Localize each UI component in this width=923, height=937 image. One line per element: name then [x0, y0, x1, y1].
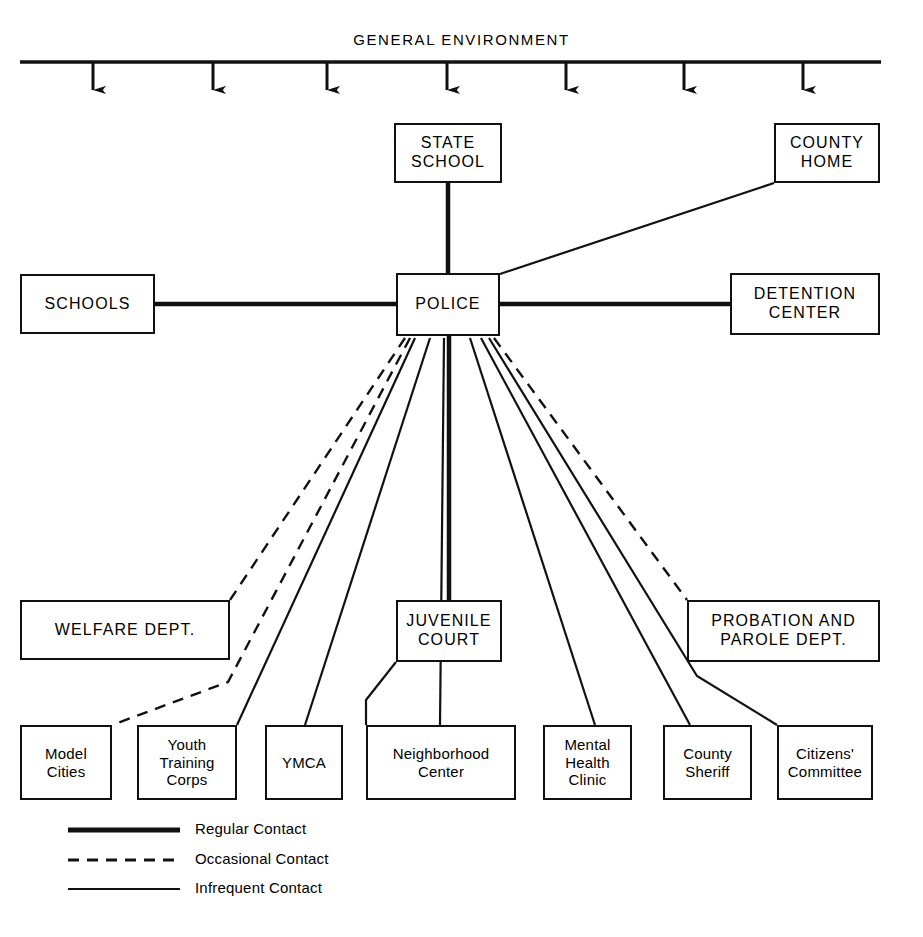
link-police-probation-parole: [494, 338, 687, 600]
node-youth-training-corps-label: Youth Training Corps: [155, 736, 218, 789]
node-detention-center-label: DETENTION CENTER: [750, 285, 860, 323]
node-schools-label: SCHOOLS: [41, 295, 135, 314]
environment-arrows: [93, 62, 803, 90]
occasional-contact-links: [112, 338, 687, 725]
link-police-county-home: [500, 183, 774, 274]
node-mental-health-clinic-label: Mental Health Clinic: [560, 736, 614, 789]
node-welfare-dept[interactable]: WELFARE DEPT.: [20, 600, 230, 660]
node-welfare-dept-label: WELFARE DEPT.: [51, 621, 200, 640]
legend-label-regular: Regular Contact: [195, 820, 306, 837]
link-police-neighborhood-center: [440, 338, 444, 725]
node-probation-parole-dept[interactable]: PROBATION AND PAROLE DEPT.: [687, 600, 880, 662]
node-ymca[interactable]: YMCA: [265, 725, 343, 800]
node-police-label: POLICE: [411, 295, 484, 314]
node-citizens-committee-label: Citizens' Committee: [784, 745, 866, 780]
link-police-welfare-dept: [230, 338, 405, 600]
node-juvenile-court[interactable]: JUVENILE COURT: [396, 600, 502, 662]
link-police-youth-training-corps: [237, 338, 415, 725]
node-state-school-label: STATE SCHOOL: [407, 134, 489, 172]
node-neighborhood-center-label: Neighborhood Center: [389, 745, 494, 780]
node-county-home-label: COUNTY HOME: [786, 134, 868, 172]
node-model-cities-label: Model Cities: [41, 745, 91, 780]
node-juvenile-court-label: JUVENILE COURT: [402, 612, 495, 650]
node-neighborhood-center[interactable]: Neighborhood Center: [366, 725, 516, 800]
node-county-home[interactable]: COUNTY HOME: [774, 123, 880, 183]
legend-label-occasional: Occasional Contact: [195, 850, 329, 867]
node-detention-center[interactable]: DETENTION CENTER: [730, 273, 880, 335]
link-police-model-cities: [112, 338, 410, 725]
diagram-canvas: GENERAL ENVIRONMENT STATE SCHOOL COUNTY …: [0, 0, 923, 937]
node-county-sheriff-label: County Sheriff: [679, 745, 736, 780]
link-police-ymca: [305, 338, 430, 725]
link-police-citizens-committee: [489, 338, 777, 725]
node-state-school[interactable]: STATE SCHOOL: [394, 123, 502, 183]
node-schools[interactable]: SCHOOLS: [20, 274, 155, 334]
node-police[interactable]: POLICE: [396, 273, 500, 336]
general-environment-title: GENERAL ENVIRONMENT: [0, 31, 923, 48]
regular-contact-links: [155, 183, 730, 600]
node-ymca-label: YMCA: [278, 754, 330, 772]
node-citizens-committee[interactable]: Citizens' Committee: [777, 725, 873, 800]
node-probation-parole-dept-label: PROBATION AND PAROLE DEPT.: [707, 612, 860, 650]
link-police-mental-health-clinic: [470, 338, 595, 725]
node-county-sheriff[interactable]: County Sheriff: [663, 725, 752, 800]
node-model-cities[interactable]: Model Cities: [20, 725, 112, 800]
node-mental-health-clinic[interactable]: Mental Health Clinic: [543, 725, 632, 800]
legend-label-infrequent: Infrequent Contact: [195, 879, 322, 896]
legend-lines: [68, 830, 180, 889]
node-youth-training-corps[interactable]: Youth Training Corps: [137, 725, 237, 800]
link-juvenile-court-neighborhood-center: [366, 662, 396, 725]
link-police-county-sheriff: [481, 338, 690, 725]
